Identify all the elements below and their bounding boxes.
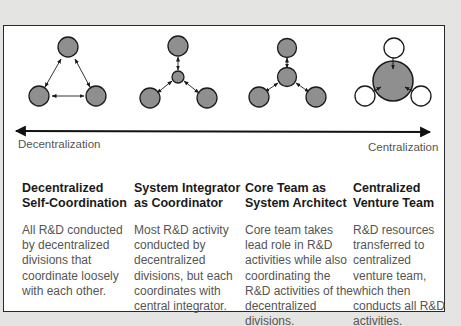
empty-division-node — [384, 38, 404, 58]
model-2-diagram — [140, 36, 217, 108]
division-node — [306, 87, 326, 107]
empty-division-node — [355, 86, 375, 106]
division-node — [168, 36, 188, 56]
axis-label-decentralization: Decentralization — [18, 138, 100, 150]
empty-division-node — [411, 86, 431, 106]
model-4-column: Centralized Venture Team R&D resources t… — [353, 181, 449, 326]
division-node — [29, 86, 49, 106]
integrator-node — [172, 71, 184, 83]
model-1-diagram — [29, 37, 106, 106]
division-node — [278, 39, 297, 58]
model-3-description: Core team takes lead role in R&D activit… — [245, 223, 355, 326]
division-node — [197, 88, 217, 108]
centralization-axis-arrow — [16, 131, 430, 132]
model-4-diagram — [355, 38, 431, 106]
axis-label-centralization: Centralization — [368, 141, 438, 153]
model-2-title: System Integrator as Coordinator — [134, 181, 244, 211]
model-3-column: Core Team as System Architect Core team … — [245, 181, 355, 326]
model-2-column: System Integrator as Coordinator Most R&… — [134, 181, 244, 314]
model-2-description: Most R&D activity conducted by decentral… — [134, 223, 244, 314]
model-3-diagram — [249, 39, 326, 108]
model-1-description: All R&D conducted by decentralized divis… — [22, 223, 132, 299]
core-team-node — [278, 68, 297, 87]
division-node — [140, 88, 160, 108]
model-4-title: Centralized Venture Team — [353, 181, 449, 211]
model-3-title: Core Team as System Architect — [245, 181, 355, 211]
division-node — [58, 37, 78, 57]
model-1-column: Decentralized Self-Coordination All R&D … — [22, 181, 132, 299]
division-node — [86, 86, 106, 106]
model-1-title: Decentralized Self-Coordination — [22, 181, 132, 211]
model-4-description: R&D resources transferred to centralized… — [353, 223, 449, 326]
division-node — [249, 87, 269, 107]
